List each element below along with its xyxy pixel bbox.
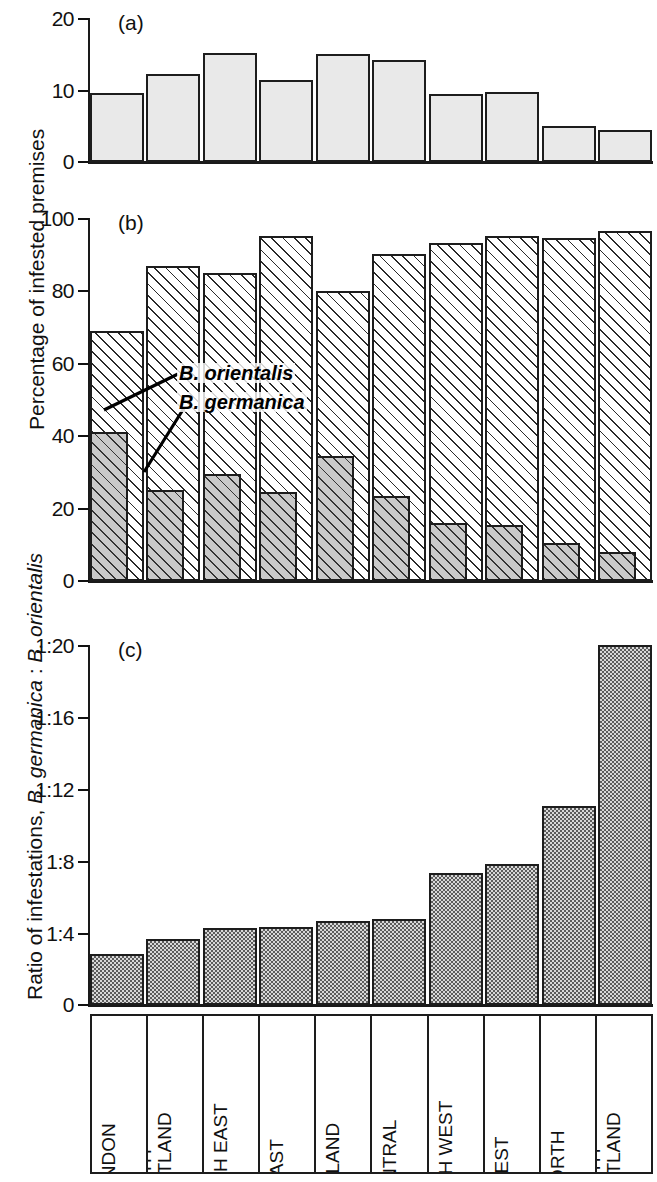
panel-c-tick-0 [78, 1004, 89, 1006]
panel-c-tick-1-20 [78, 645, 89, 647]
category-cell-london: LONDON [92, 1016, 148, 1172]
bar-b-germanica-west [485, 525, 523, 581]
category-label-south-west: SOUTH WEST [436, 1101, 456, 1172]
panel-c-tag: (c) [118, 639, 143, 660]
panel-b-tick-20 [78, 508, 89, 510]
bar-a-central [372, 60, 426, 162]
bar-a-east [259, 80, 313, 163]
panel-c-ticklabel-1-12: 1:12 [4, 779, 74, 800]
category-label-south-scotland: SOUTH SCOTLAND [148, 1112, 175, 1172]
panel-a-ticklabel-20: 20 [26, 8, 74, 29]
bar-c-south-east [203, 928, 257, 1005]
category-line: LONDON [99, 1123, 119, 1172]
panel-b-tick-60 [78, 363, 89, 365]
category-label-east: EAST [267, 1139, 287, 1172]
category-cell-south-scotland: SOUTH SCOTLAND [148, 1016, 204, 1172]
category-line: CENTRAL [380, 1120, 400, 1172]
bar-b-germanica-north-scotland [598, 552, 636, 581]
panel-a-ticklabel-0: 0 [26, 151, 74, 172]
category-label-north-scotland: NORTH SCOTLAND [597, 1112, 624, 1172]
category-label-west: WEST [492, 1137, 512, 1172]
annotation-b-orientalis: B. orientalis [177, 363, 295, 383]
panel-c-ticklabel-1-16: 1:16 [4, 707, 74, 728]
bar-a-south-scotland [146, 74, 200, 162]
bar-a-west [485, 92, 539, 163]
bar-b-germanica-north [542, 543, 580, 581]
category-cell-north: NORTH [541, 1016, 597, 1172]
category-label-north: NORTH [548, 1130, 568, 1172]
panel-c-tick-1-4 [78, 933, 89, 935]
panel-b-ticklabel-0: 0 [10, 570, 74, 591]
category-cell-ireland: IRELAND [316, 1016, 372, 1172]
category-line: EAST [267, 1139, 287, 1172]
bar-a-north-scotland [598, 130, 652, 162]
category-label-ireland: IRELAND [323, 1123, 343, 1172]
panel-b-ticklabel-40: 40 [10, 425, 74, 446]
category-line: WEST [492, 1137, 512, 1172]
bar-c-south-west [429, 873, 483, 1005]
panel-b-tag: (b) [118, 212, 144, 233]
bar-c-south-scotland [146, 939, 200, 1005]
panel-c-ticklabel-0: 0 [4, 994, 74, 1015]
bar-b-orientalis-north [542, 238, 596, 581]
category-line: SOUTH EAST [211, 1103, 231, 1172]
bar-b-orientalis-north-scotland [598, 231, 652, 581]
category-cell-south-east: SOUTH EAST [204, 1016, 260, 1172]
ratio-label-separator: : [23, 663, 46, 681]
panel-b-tick-0 [78, 580, 89, 582]
panel-a-tick-20 [78, 18, 89, 20]
panel-c-tick-1-12 [78, 789, 89, 791]
panel-b-ticklabel-80: 80 [10, 280, 74, 301]
bar-c-central [372, 919, 426, 1005]
bar-a-south-east [203, 53, 257, 162]
category-label-central: CENTRAL [380, 1120, 400, 1172]
category-label-london: LONDON [99, 1123, 119, 1172]
bar-b-germanica-east [259, 492, 297, 581]
bar-c-ireland [316, 921, 370, 1005]
category-line: NORTH [548, 1130, 568, 1172]
panel-c-ticklabel-1-8: 1:8 [4, 851, 74, 872]
panel-a-tag: (a) [118, 12, 144, 33]
panel-b-ticklabel-100: 100 [10, 208, 74, 229]
panel-c-ticklabel-1-20: 1:20 [4, 635, 74, 656]
category-label-table: LONDON SOUTH SCOTLAND SOUTH EAST EAST IR… [90, 1014, 653, 1174]
panel-b-tick-40 [78, 435, 89, 437]
bar-c-east [259, 927, 313, 1005]
panel-a-tick-0 [78, 161, 89, 163]
ratio-label-prefix: Ratio of infestations, [23, 804, 46, 1000]
bar-a-south-west [429, 94, 483, 162]
panel-b-ticklabel-20: 20 [10, 498, 74, 519]
bar-b-germanica-south-west [429, 523, 467, 581]
bar-c-west [485, 864, 539, 1005]
category-cell-east: EAST [260, 1016, 316, 1172]
bar-c-north-scotland [598, 645, 652, 1005]
bar-b-germanica-ireland [316, 456, 354, 581]
panel-c-ticklabel-1-4: 1:4 [4, 923, 74, 944]
panel-c-tick-1-8 [78, 861, 89, 863]
bar-b-germanica-central [372, 496, 410, 581]
category-line: SOUTH WEST [436, 1101, 456, 1172]
bar-a-ireland [316, 54, 370, 162]
category-line: SCOTLAND [155, 1112, 175, 1172]
panel-b-ticklabel-60: 60 [10, 353, 74, 374]
bar-c-london [90, 954, 144, 1005]
figure-root: Percentage of infested premises Ratio of… [0, 0, 657, 1182]
bar-c-north [542, 806, 596, 1005]
category-cell-north-scotland: NORTH SCOTLAND [597, 1016, 651, 1172]
panel-c-tick-1-16 [78, 717, 89, 719]
panel-a-tick-10 [78, 90, 89, 92]
panel-b-tick-100 [78, 218, 89, 220]
category-cell-south-west: SOUTH WEST [429, 1016, 485, 1172]
category-label-south-east: SOUTH EAST [211, 1103, 231, 1172]
bar-a-london [90, 93, 144, 162]
bar-a-north [542, 126, 596, 162]
category-line: IRELAND [323, 1123, 343, 1172]
bar-b-germanica-south-scotland [146, 490, 184, 581]
bar-b-germanica-south-east [203, 474, 241, 581]
category-cell-central: CENTRAL [372, 1016, 428, 1172]
category-line: SCOTLAND [604, 1112, 624, 1172]
panel-b-tick-80 [78, 290, 89, 292]
panel-a-ticklabel-10: 10 [26, 80, 74, 101]
category-cell-west: WEST [485, 1016, 541, 1172]
annotation-b-germanica: B. germanica [177, 392, 307, 412]
